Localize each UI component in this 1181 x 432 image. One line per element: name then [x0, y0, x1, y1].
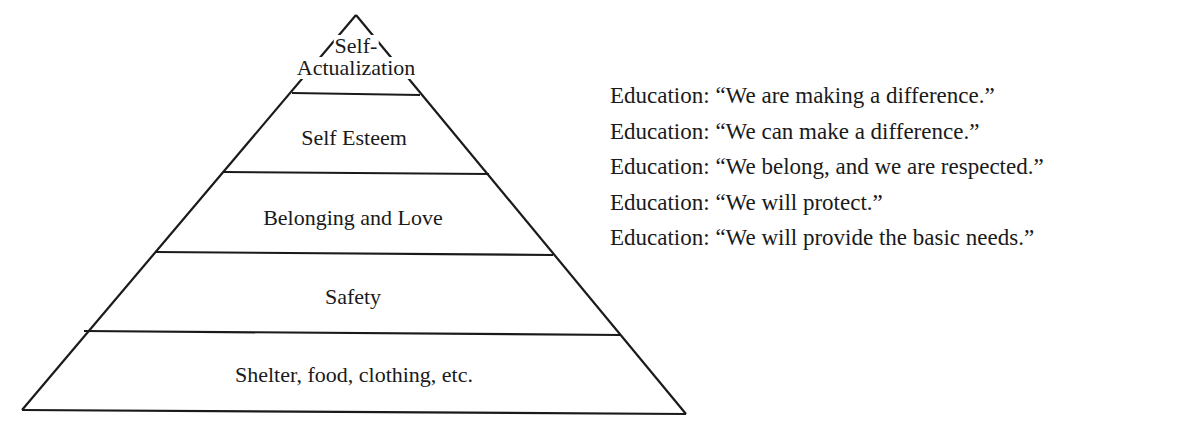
statement-self-esteem: Education: “We can make a difference.”	[610, 114, 1044, 150]
level-self-actualization-line2: Actualization	[296, 57, 417, 79]
statement-belonging: Education: “We belong, and we are respec…	[610, 149, 1044, 185]
divider-3	[156, 252, 553, 255]
level-safety: Safety	[325, 285, 381, 309]
divider-4	[84, 331, 621, 335]
level-self-actualization-line1: Self-	[334, 35, 379, 57]
statement-self-actualization: Education: “We are making a difference.”	[610, 78, 1044, 114]
divider-1	[292, 93, 420, 95]
statement-basic-needs: Education: “We will provide the basic ne…	[610, 220, 1044, 256]
level-self-esteem: Self Esteem	[301, 126, 407, 150]
pyramid-base	[22, 410, 686, 414]
education-statements: Education: “We are making a difference.”…	[610, 78, 1044, 256]
level-basic-needs: Shelter, food, clothing, etc.	[235, 363, 473, 387]
divider-2	[224, 172, 489, 174]
level-belonging-and-love: Belonging and Love	[263, 206, 443, 230]
level-self-actualization: Self- Actualization	[296, 35, 417, 79]
statement-safety: Education: “We will protect.”	[610, 185, 1044, 221]
